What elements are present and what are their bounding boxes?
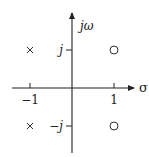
sigma-axis-label: σ [139, 80, 148, 95]
pole-zero-plot: σ jω −11j−j [0, 0, 149, 157]
jomega-axis-label: jω [77, 19, 94, 33]
zero-marker [110, 122, 118, 130]
pole-marker [27, 123, 33, 129]
zero-marker [110, 46, 118, 54]
jomega-tick-label: −j [49, 119, 63, 133]
jomega-tick-label: j [56, 43, 63, 57]
sigma-tick-label: 1 [110, 93, 118, 107]
sigma-tick-label: −1 [21, 93, 39, 107]
pole-marker [27, 47, 33, 53]
